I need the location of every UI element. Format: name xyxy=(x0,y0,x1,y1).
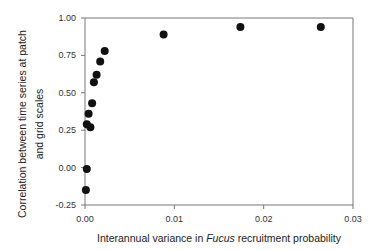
x-axis-ticks: 0.000.010.020.03 xyxy=(76,205,362,224)
x-tick-label: 0.01 xyxy=(166,214,184,224)
data-point xyxy=(90,78,98,86)
y-axis-title: Correlation between time series at patch… xyxy=(16,30,45,218)
y-tick-label: 1.00 xyxy=(58,13,76,23)
y-axis-title-line: and grid scales xyxy=(33,89,45,160)
x-tick-label: 0.03 xyxy=(344,214,362,224)
y-tick-label: 0.75 xyxy=(58,50,76,60)
y-axis-title-line: Correlation between time series at patch xyxy=(16,30,28,218)
x-axis-title-italic: Fucus xyxy=(206,232,235,244)
data-point xyxy=(86,123,94,131)
data-points xyxy=(82,23,325,194)
x-axis-title: Interannual variance in Fucus recruitmen… xyxy=(97,232,342,244)
x-tick-label: 0.02 xyxy=(255,214,273,224)
data-point xyxy=(83,165,91,173)
x-axis-title-part: recruitment probability xyxy=(235,232,342,244)
x-axis-title-part: Interannual variance in xyxy=(97,232,206,244)
y-tick-label: 0.00 xyxy=(58,163,76,173)
data-point xyxy=(96,57,104,65)
y-tick-label: 0.50 xyxy=(58,88,76,98)
data-point xyxy=(93,71,101,79)
data-point xyxy=(236,23,244,31)
x-tick-label: 0.00 xyxy=(76,214,94,224)
y-axis-ticks: -0.250.000.250.500.751.00 xyxy=(55,13,85,210)
y-tick-label: -0.25 xyxy=(55,200,76,210)
y-tick-label: 0.25 xyxy=(58,125,76,135)
data-point xyxy=(101,47,109,55)
data-point xyxy=(82,186,90,194)
plot-frame xyxy=(85,18,353,205)
scatter-chart: -0.250.000.250.500.751.00 0.000.010.020.… xyxy=(0,0,381,250)
data-point xyxy=(88,99,96,107)
data-point xyxy=(317,23,325,31)
data-point xyxy=(85,110,93,118)
data-point xyxy=(160,31,168,39)
